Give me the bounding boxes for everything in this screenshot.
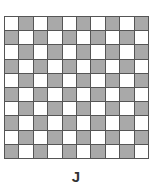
grid-cell — [91, 74, 104, 87]
grid-cell — [91, 116, 104, 129]
grid-cell — [77, 45, 90, 58]
grid-cell — [63, 131, 76, 144]
grid-cell — [77, 102, 90, 115]
grid-cell — [19, 74, 32, 87]
grid-cell — [91, 60, 104, 73]
grid-cell — [120, 145, 133, 158]
grid-cell — [91, 31, 104, 44]
grid-cell — [5, 145, 18, 158]
figure-label: J — [0, 168, 152, 185]
grid-cell — [63, 74, 76, 87]
grid-cell — [120, 60, 133, 73]
grid-cell — [34, 102, 47, 115]
grid-cell — [120, 88, 133, 101]
grid-cell — [91, 102, 104, 115]
grid-cell — [19, 145, 32, 158]
grid-cell — [135, 60, 148, 73]
grid-cell — [135, 145, 148, 158]
grid-cell — [91, 145, 104, 158]
grid-cell — [34, 17, 47, 30]
grid-cell — [5, 116, 18, 129]
grid-cell — [135, 102, 148, 115]
grid-cell — [34, 60, 47, 73]
grid-cell — [48, 45, 61, 58]
grid-cell — [135, 88, 148, 101]
grid-cell — [19, 17, 32, 30]
grid-cell — [106, 74, 119, 87]
grid-cell — [91, 131, 104, 144]
grid-cell — [106, 131, 119, 144]
grid-cell — [77, 131, 90, 144]
grid-cell — [19, 102, 32, 115]
grid-cell — [135, 17, 148, 30]
grid-cell — [48, 116, 61, 129]
grid-cell — [48, 17, 61, 30]
grid-cell — [106, 45, 119, 58]
grid-cell — [19, 45, 32, 58]
grid-cell — [19, 60, 32, 73]
grid-cell — [77, 145, 90, 158]
grid-cell — [120, 102, 133, 115]
grid-cell — [5, 131, 18, 144]
grid-cell — [48, 88, 61, 101]
grid-cell — [120, 131, 133, 144]
grid-cell — [63, 102, 76, 115]
grid-cell — [5, 74, 18, 87]
grid-cell — [63, 88, 76, 101]
grid-cell — [5, 102, 18, 115]
grid-cell — [48, 131, 61, 144]
grid-cell — [34, 145, 47, 158]
grid-cell — [19, 88, 32, 101]
grid-cell — [135, 45, 148, 58]
grid-cell — [91, 88, 104, 101]
grid-cell — [91, 17, 104, 30]
grid-cell — [77, 116, 90, 129]
grid-cell — [106, 31, 119, 44]
grid-cell — [5, 31, 18, 44]
grid-cell — [19, 131, 32, 144]
grid-cell — [106, 116, 119, 129]
grid-cell — [5, 17, 18, 30]
checkerboard-grid — [4, 16, 149, 159]
grid-cell — [120, 17, 133, 30]
grid-cell — [63, 17, 76, 30]
grid-cell — [34, 116, 47, 129]
grid-cell — [63, 145, 76, 158]
grid-cell — [120, 116, 133, 129]
grid-cell — [63, 45, 76, 58]
grid-cell — [63, 60, 76, 73]
grid-cell — [77, 17, 90, 30]
grid-cell — [91, 45, 104, 58]
grid-cell — [34, 131, 47, 144]
grid-cell — [135, 131, 148, 144]
grid-cell — [48, 60, 61, 73]
grid-cell — [77, 88, 90, 101]
grid-cell — [19, 31, 32, 44]
grid-cell — [34, 31, 47, 44]
grid-cell — [120, 74, 133, 87]
grid-cell — [63, 116, 76, 129]
grid-cell — [63, 31, 76, 44]
grid-cell — [120, 45, 133, 58]
grid-cell — [77, 60, 90, 73]
grid-cell — [106, 102, 119, 115]
grid-cell — [34, 74, 47, 87]
grid-cell — [5, 88, 18, 101]
grid-cell — [34, 45, 47, 58]
grid-cell — [34, 88, 47, 101]
grid-cell — [48, 31, 61, 44]
grid-cell — [19, 116, 32, 129]
grid-cell — [135, 116, 148, 129]
grid-cell — [106, 17, 119, 30]
grid-cell — [5, 60, 18, 73]
grid-cell — [120, 31, 133, 44]
grid-cell — [106, 88, 119, 101]
grid-cell — [48, 145, 61, 158]
grid-cell — [48, 74, 61, 87]
grid-cell — [48, 102, 61, 115]
grid-cell — [135, 31, 148, 44]
grid-cell — [77, 31, 90, 44]
grid-cell — [77, 74, 90, 87]
grid-cell — [106, 145, 119, 158]
grid-cell — [135, 74, 148, 87]
